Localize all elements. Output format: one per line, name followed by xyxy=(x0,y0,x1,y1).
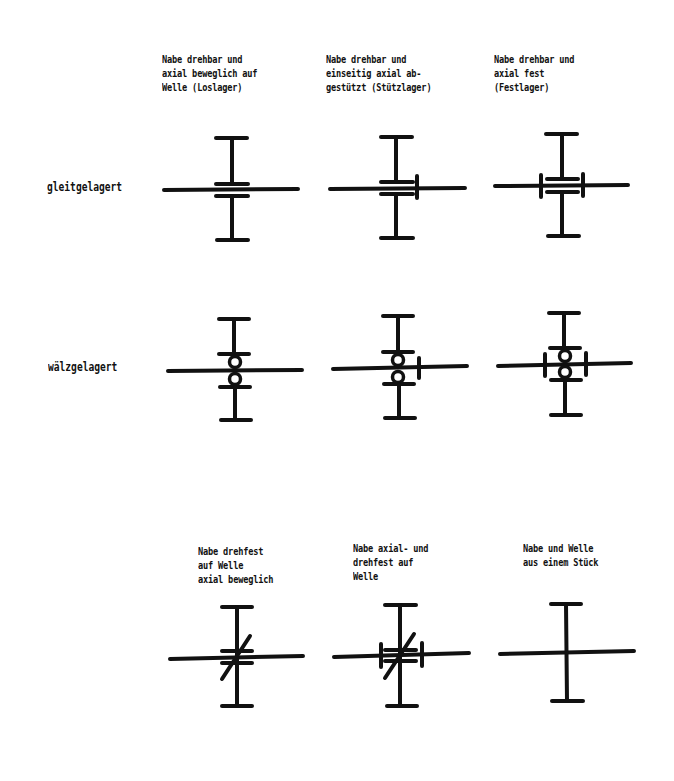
symbol-gleit-loslager xyxy=(164,138,298,240)
symbol-drehfest-axial-fest xyxy=(334,605,469,706)
symbol-einteilig xyxy=(500,604,634,701)
symbol-gleit-stuetzlager xyxy=(330,137,465,238)
bearing-symbols-diagram xyxy=(0,0,674,781)
symbol-waelz-festlager xyxy=(498,313,631,415)
symbol-drehfest-axial-beweglich xyxy=(170,607,303,706)
symbol-waelz-loslager xyxy=(168,319,302,420)
symbol-gleit-festlager xyxy=(495,134,628,236)
symbol-waelz-stuetzlager xyxy=(333,316,467,418)
